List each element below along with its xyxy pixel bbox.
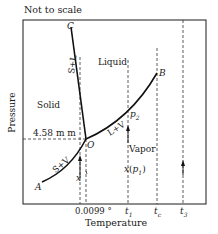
plot-frame [23,20,206,204]
tick-tc: tc [154,207,161,218]
region-solid-label: Solid [37,101,60,110]
p2-label: p2 [130,110,140,121]
arrow-up-icon [181,160,185,175]
point-a-label: A [35,183,42,192]
triple-pressure-label: 4.58 m m [33,129,76,138]
fusion-curve [71,27,86,139]
region-liquid-label: Liquid [98,58,127,67]
tick-t3: t3 [180,207,187,218]
x-tick-mark [86,171,87,174]
y-axis-label: Pressure [8,92,17,132]
x-axis-label: Temperature [85,218,147,228]
tick-t1: t1 [125,207,132,218]
region-vapor-label: Vapor [129,145,156,154]
point-c-label: C [67,22,74,31]
phase-diagram-plot [0,0,218,234]
tick-triple-temp: 0.0099 ° [75,207,112,216]
x-point-label: x [76,174,81,183]
x-p1-label: x(p1) [124,165,146,176]
point-b-label: B [159,69,166,78]
not-to-scale-note: Not to scale [24,5,82,15]
point-o-label: O [87,141,94,150]
